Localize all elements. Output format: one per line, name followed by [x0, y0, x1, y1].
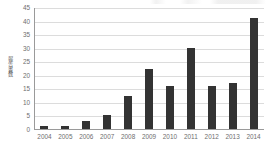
x-axis-tick-label: 2014	[243, 133, 264, 140]
x-axis-tick-labels: 2004200520062007200820092010201120122013…	[34, 133, 264, 147]
cropped-header-artifact	[150, 0, 268, 4]
y-axis-tick-labels: 454035302520151050	[12, 0, 32, 152]
x-axis-tick-label: 2006	[76, 133, 97, 140]
x-axis-tick-label: 2012	[201, 133, 222, 140]
x-axis-tick-label: 2008	[118, 133, 139, 140]
y-axis-tick-label: 15	[23, 86, 30, 92]
y-axis-tick-label: 20	[23, 73, 30, 79]
y-axis-tick-label: 30	[23, 45, 30, 51]
y-axis-title: 報告書数	[1, 56, 12, 76]
y-axis-tick-label: 10	[23, 100, 30, 106]
bars-layer	[34, 8, 264, 130]
x-axis-tick-label: 2010	[159, 133, 180, 140]
bar[interactable]	[229, 83, 237, 129]
bar[interactable]	[124, 96, 132, 129]
x-axis-tick-label: 2009	[139, 133, 160, 140]
x-axis-tick-label: 2004	[34, 133, 55, 140]
plot-area	[34, 8, 264, 130]
bar[interactable]	[208, 86, 216, 129]
bar[interactable]	[187, 48, 195, 129]
bar[interactable]	[166, 86, 174, 129]
bar[interactable]	[145, 69, 153, 129]
y-axis-tick-label: 5	[26, 113, 30, 119]
x-axis-tick-label: 2013	[222, 133, 243, 140]
bar[interactable]	[103, 115, 111, 129]
x-axis-tick-label: 2007	[97, 133, 118, 140]
bar-chart-figure: 報告書数 454035302520151050 2004200520062007…	[0, 0, 268, 152]
y-axis-tick-label: 25	[23, 59, 30, 65]
x-axis-tick-label: 2005	[55, 133, 76, 140]
bar[interactable]	[40, 126, 48, 129]
bar[interactable]	[82, 121, 90, 129]
y-axis-tick-label: 0	[26, 127, 30, 133]
y-axis-tick-label: 40	[23, 18, 30, 24]
y-axis-tick-label: 35	[23, 32, 30, 38]
bar[interactable]	[61, 126, 69, 129]
bar[interactable]	[250, 18, 258, 129]
x-axis-tick-label: 2011	[180, 133, 201, 140]
y-axis-tick-label: 45	[23, 5, 30, 11]
